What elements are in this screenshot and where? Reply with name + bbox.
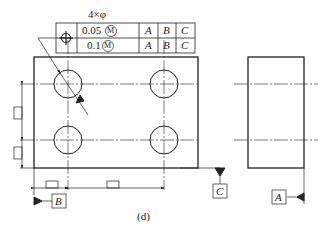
fcf-row1-datum-a: A <box>145 24 152 36</box>
figure-caption: (d) <box>137 210 150 222</box>
fcf-row2-modifier: M <box>104 41 111 50</box>
side-view-outline <box>248 57 304 168</box>
fcf-row2-datum-b: B <box>163 39 170 51</box>
fcf-row2-datum-c: C <box>181 39 188 51</box>
feature-count-label: 4×φ <box>88 8 106 20</box>
fcf-row2-tolerance: 0.1 <box>87 39 101 51</box>
fcf-row1-modifier: M <box>107 26 114 35</box>
datum-c-label: C <box>216 185 223 197</box>
fcf-row1-datum-b: B <box>163 24 170 36</box>
datum-a-label: A <box>275 191 282 203</box>
datum-b-label: B <box>55 195 62 207</box>
fcf-row1-datum-c: C <box>181 24 188 36</box>
fcf-row2-datum-a: A <box>145 39 152 51</box>
fcf-row1-tolerance: 0.05 <box>82 24 101 36</box>
